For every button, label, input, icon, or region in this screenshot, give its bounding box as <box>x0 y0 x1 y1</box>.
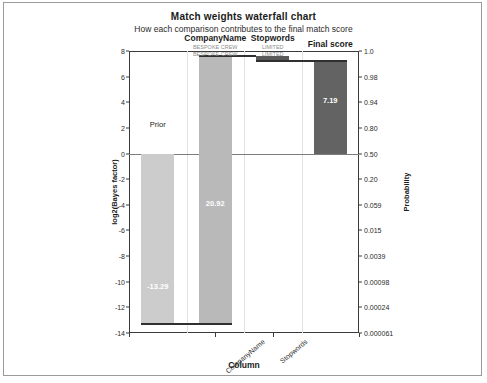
y-axis-line-left <box>129 51 130 333</box>
y-tick-label-left: -14 <box>115 330 125 337</box>
y-tick-mark-left <box>126 127 129 128</box>
bar-value-label: -13.29 <box>147 282 168 291</box>
column-header-value: LIMITED <box>262 44 284 51</box>
y-axis-label-right-text: Probability <box>402 173 411 212</box>
y-tick-mark-right <box>359 102 362 103</box>
gridline-vertical <box>187 51 188 333</box>
y-axis-label-left: log2(Bayes factor) <box>108 51 120 333</box>
y-tick-mark-right <box>359 51 362 52</box>
y-tick-mark-left <box>126 76 129 77</box>
annotation-prior: Prior <box>150 120 166 129</box>
y-tick-label-right: 1.0 <box>364 48 374 55</box>
y-tick-mark-right <box>359 204 362 205</box>
y-tick-label-right: 0.00098 <box>364 278 389 285</box>
y-tick-mark-left <box>126 256 129 257</box>
y-tick-label-right: 0.94 <box>364 99 378 106</box>
column-header-value: LIMITED <box>262 51 284 58</box>
y-tick-mark-left <box>126 179 129 180</box>
y-tick-label-left: -6 <box>119 227 125 234</box>
bar-prior[interactable] <box>141 154 174 324</box>
y-axis-line-right <box>358 51 359 333</box>
column-header-final-score: Final score <box>308 39 353 49</box>
x-tick-mark <box>129 333 130 337</box>
y-tick-mark-right <box>359 153 362 154</box>
column-header-value: BESPOKE CREW <box>193 51 238 58</box>
y-tick-label-left: 8 <box>121 48 125 55</box>
plot-area: 86420-2-4-6-8-10-12-141.00.980.940.800.5… <box>129 51 359 333</box>
bar-final-score[interactable] <box>314 61 347 153</box>
bar-value-label: 7.19 <box>323 96 338 105</box>
gridline-vertical <box>244 51 245 333</box>
y-tick-mark-right <box>359 307 362 308</box>
bar-cap-stopwords <box>256 60 289 62</box>
y-tick-label-left: 2 <box>121 124 125 131</box>
y-tick-label-right: 0.015 <box>364 227 382 234</box>
bar-cap-final-score <box>314 60 347 62</box>
y-tick-label-right: 0.50 <box>364 150 378 157</box>
column-header-values: LIMITEDLIMITED <box>262 44 284 58</box>
y-tick-mark-left <box>126 307 129 308</box>
y-tick-label-left: 4 <box>121 99 125 106</box>
y-tick-mark-left <box>126 51 129 52</box>
y-tick-mark-left <box>126 102 129 103</box>
x-tick-mark <box>273 333 274 337</box>
y-tick-label-left: -2 <box>119 176 125 183</box>
y-axis-label-right: Probability <box>400 51 412 333</box>
y-tick-label-right: 0.98 <box>364 73 378 80</box>
y-tick-label-left: -8 <box>119 253 125 260</box>
y-tick-label-left: -10 <box>115 278 125 285</box>
y-tick-label-right: 0.20 <box>364 176 378 183</box>
y-tick-mark-right <box>359 256 362 257</box>
y-tick-mark-right <box>359 230 362 231</box>
y-tick-mark-left <box>126 281 129 282</box>
y-tick-mark-left <box>126 153 129 154</box>
y-tick-mark-left <box>126 230 129 231</box>
y-tick-mark-left <box>126 204 129 205</box>
y-tick-label-right: 0.00024 <box>364 304 389 311</box>
column-header-stopwords: Stopwords <box>251 33 295 43</box>
y-tick-label-right: 0.80 <box>364 124 378 131</box>
column-header-value: BESPOKE CREW <box>193 44 238 51</box>
prior-baseline <box>141 323 232 325</box>
y-axis-label-left-text: log2(Bayes factor) <box>110 159 119 224</box>
y-tick-label-left: -4 <box>119 201 125 208</box>
y-tick-mark-right <box>359 281 362 282</box>
waterfall-connector <box>289 60 313 62</box>
y-tick-label-left: 0 <box>121 150 125 157</box>
chart-title: Match weights waterfall chart <box>4 11 483 22</box>
y-tick-label-right: 0.059 <box>364 201 382 208</box>
chart-frame: Match weights waterfall chart How each c… <box>3 2 482 376</box>
y-tick-mark-right <box>359 76 362 77</box>
y-tick-label-right: 0.0039 <box>364 253 385 260</box>
bar-value-label: 20.92 <box>206 199 225 208</box>
x-tick-mark <box>359 333 360 337</box>
y-tick-label-left: -12 <box>115 304 125 311</box>
gridline-vertical <box>302 51 303 333</box>
y-tick-mark-right <box>359 127 362 128</box>
x-tick-mark <box>215 333 216 337</box>
y-tick-label-right: 0.000061 <box>364 330 393 337</box>
column-header-values: BESPOKE CREWBESPOKE CREW <box>193 44 238 58</box>
y-tick-mark-right <box>359 179 362 180</box>
y-tick-label-left: 6 <box>121 73 125 80</box>
bar-companyname[interactable] <box>199 56 232 324</box>
column-header-companyname: CompanyName <box>184 33 246 43</box>
